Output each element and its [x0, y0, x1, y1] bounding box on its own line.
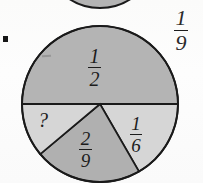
figure-page: 1 2 ? 2 9 1 6 1 9	[0, 0, 203, 183]
pie-figure-svg	[0, 0, 203, 183]
pie-label-two-ninths: 2 9	[79, 129, 92, 170]
pie-label-one-half: 1 2	[88, 46, 101, 89]
pie-label-one-sixth: 1 6	[130, 114, 142, 155]
pie-label-unknown: ?	[38, 109, 48, 132]
pie-label-one-half-numerator: 1	[90, 46, 100, 66]
pie-label-two-ninths-denominator: 9	[81, 151, 91, 170]
stray-fraction-one-ninth: 1 9	[174, 7, 188, 54]
top-partial-circle	[44, 0, 156, 8]
pie-label-one-half-denominator: 2	[90, 69, 100, 89]
pie-label-one-sixth-numerator: 1	[131, 114, 141, 133]
stray-fraction-denominator: 9	[176, 32, 187, 54]
margin-bullet-icon	[3, 36, 8, 42]
pie-label-two-ninths-numerator: 2	[81, 129, 91, 148]
pie-label-one-sixth-denominator: 6	[131, 136, 141, 155]
stray-fraction-numerator: 1	[176, 7, 187, 29]
